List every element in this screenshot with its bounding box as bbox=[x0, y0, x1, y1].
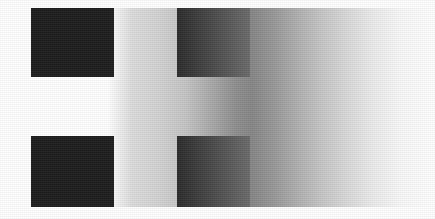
test-patch-bottom-left bbox=[31, 136, 114, 207]
test-patch-top-left bbox=[31, 8, 114, 77]
illusion-canvas bbox=[0, 0, 435, 219]
test-patch-top-right bbox=[177, 8, 250, 77]
test-patch-bottom-right bbox=[177, 136, 250, 207]
